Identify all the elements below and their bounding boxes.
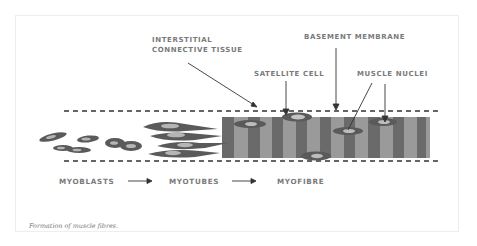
myotubes	[143, 122, 228, 157]
label-basement-membrane: BASEMENT MEMBRANE	[304, 33, 405, 43]
myofibre	[222, 113, 430, 161]
stage-myofibre: MYOFIBRE	[277, 177, 324, 186]
stage-myoblasts: MYOBLASTS	[59, 177, 114, 186]
figure-caption: Formation of muscle fibres.	[29, 222, 118, 230]
myoblasts	[39, 130, 142, 153]
label-interstitial-connective-tissue: INTERSTITIAL CONNECTIVE TISSUE	[152, 36, 243, 55]
label-muscle-nuclei: MUSCLE NUCLEI	[357, 70, 428, 80]
stage-myotubes: MYOTUBES	[169, 177, 219, 186]
label-satellite-cell: SATELLITE CELL	[254, 70, 324, 80]
